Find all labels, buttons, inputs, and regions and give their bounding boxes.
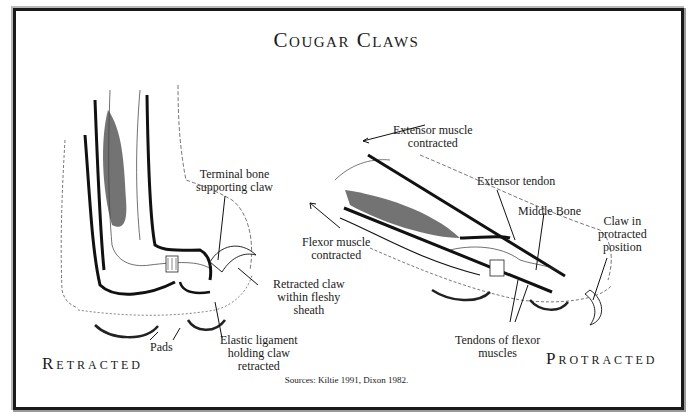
label-elastic-ligament: Elastic ligament holding claw retracted: [220, 334, 298, 373]
heading-protracted: Protracted: [546, 349, 657, 369]
label-line: retracted: [220, 360, 298, 373]
heading-retracted: Retracted: [42, 354, 143, 374]
label-middle-bone: Middle Bone: [518, 205, 581, 218]
label-flexor-muscle: Flexor muscle contracted: [302, 236, 370, 262]
label-extensor-tendon: Extensor tendon: [477, 175, 555, 188]
label-line: contracted: [302, 249, 370, 262]
label-flexor-tendons: Tendons of flexor muscles: [455, 334, 540, 360]
label-retracted-claw: Retracted claw within fleshy sheath: [273, 278, 345, 317]
label-line: position: [598, 241, 647, 254]
label-pads: Pads: [150, 341, 173, 354]
label-line: supporting claw: [196, 181, 273, 194]
label-terminal-bone: Terminal bone supporting claw: [196, 168, 273, 194]
sources-caption: Sources: Kiltie 1991, Dixon 1982.: [0, 375, 693, 385]
retracted-paw-drawing: [61, 85, 258, 340]
label-extensor-muscle: Extensor muscle contracted: [393, 124, 473, 150]
protracted-paw-drawing: [310, 125, 612, 325]
label-line: muscles: [455, 347, 540, 360]
label-line: contracted: [393, 137, 473, 150]
label-claw-protracted: Claw in protracted position: [598, 215, 647, 254]
label-line: sheath: [273, 304, 345, 317]
